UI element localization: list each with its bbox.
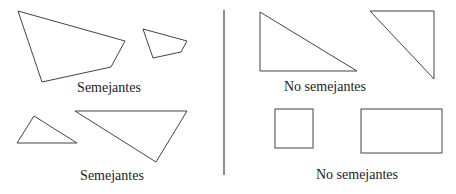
- label-top-right: No semejantes: [284, 79, 366, 95]
- label-bottom-left: Semejantes: [80, 168, 144, 184]
- small-quadrilateral: [143, 29, 187, 58]
- large-triangle: [75, 111, 187, 162]
- label-bottom-right: No semejantes: [316, 167, 398, 183]
- square: [275, 109, 313, 148]
- label-top-left: Semejantes: [77, 80, 141, 96]
- figure-canvas: [0, 0, 456, 194]
- small-triangle: [17, 116, 77, 143]
- large-quadrilateral: [18, 11, 125, 82]
- right-triangle-right: [370, 11, 434, 79]
- right-triangle-left: [260, 12, 357, 71]
- rectangle: [361, 109, 442, 153]
